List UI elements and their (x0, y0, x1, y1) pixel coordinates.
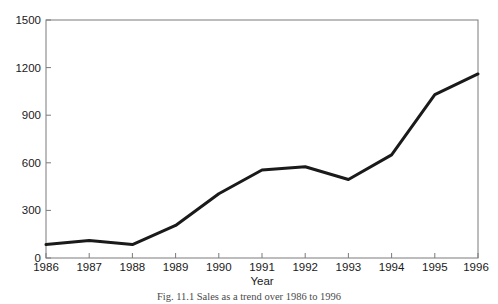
x-tick-label-1993: 1993 (336, 261, 362, 273)
x-tick-label-1991: 1991 (249, 261, 275, 273)
x-tick-label-1988: 1988 (120, 261, 146, 273)
y-tick-label-600: 600 (22, 157, 41, 169)
x-tick-label-1989: 1989 (163, 261, 189, 273)
x-tick-label-1992: 1992 (292, 261, 318, 273)
x-tick-label-1995: 1995 (422, 261, 448, 273)
y-tick-label-300: 300 (22, 204, 41, 216)
x-tick-label-1990: 1990 (206, 261, 232, 273)
y-tick-label-1500: 1500 (15, 14, 41, 26)
x-tick-label-1986: 1986 (33, 261, 59, 273)
figure-caption: Fig. 11.1 Sales as a trend over 1986 to … (0, 291, 498, 302)
x-tick-label-1987: 1987 (76, 261, 102, 273)
y-tick-label-900: 900 (22, 109, 41, 121)
x-tick-label-1996: 1996 (463, 261, 489, 273)
x-axis-title: Year (250, 275, 273, 287)
x-tick-label-1994: 1994 (379, 261, 405, 273)
line-chart: 0 300 600 900 1200 1500 1986 1987 1988 (0, 0, 498, 304)
y-tick-label-1200: 1200 (15, 62, 41, 74)
figure-container: 0 300 600 900 1200 1500 1986 1987 1988 (0, 0, 498, 304)
